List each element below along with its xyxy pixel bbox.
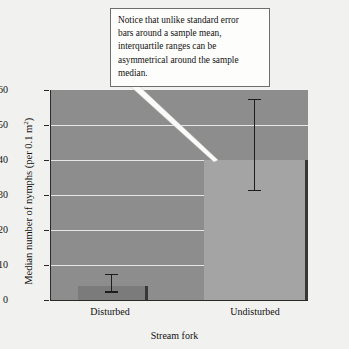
x-tick-label-undisturbed: Undisturbed [200,306,310,317]
gridline-50 [51,125,308,126]
y-tick-label-10: 10 [0,259,8,271]
callout-line-1: Notice that unlike standard error [118,14,262,27]
y-tick-label-60: 60 [0,84,8,96]
errorbar-disturbed-cap-lower [105,291,118,293]
errorbar-undisturbed-cap-upper [248,99,261,101]
errorbar-undisturbed-cap-lower [248,190,261,192]
y-tick-label-20: 20 [0,224,8,236]
y-tick-mark-50 [44,125,49,126]
x-axis-title: Stream fork [0,330,349,341]
y-tick-mark-30 [44,195,49,196]
y-tick-mark-20 [44,230,49,231]
y-axis-title-tail: ) [23,118,34,122]
callout-line-4: asymmetrical around the sample [118,54,262,67]
plot-area [50,90,308,301]
y-axis-title-exponent: 2 [22,121,30,125]
y-tick-mark-60 [44,90,49,91]
y-tick-mark-0 [44,300,49,301]
y-tick-mark-40 [44,160,49,161]
bar-disturbed-shadow [145,286,148,300]
y-tick-label-40: 40 [0,154,8,166]
y-axis-title-main: Median number of nymphs (per 0.1 m [23,125,34,285]
callout-box: Notice that unlike standard error bars a… [110,8,270,87]
errorbar-disturbed-cap-upper [105,274,118,276]
callout-line-2: bars around a sample mean, [118,27,262,40]
y-tick-mark-10 [44,265,49,266]
errorbar-disturbed-stem [111,274,113,292]
x-tick-label-disturbed: Disturbed [60,306,160,317]
bar-undisturbed-shadow [305,160,308,300]
y-tick-label-30: 30 [0,189,8,201]
callout-line-5: median. [118,67,262,80]
errorbar-undisturbed-stem [254,99,256,190]
y-tick-label-50: 50 [0,119,8,131]
figure-bar-chart-nymphs: 60 50 40 30 20 10 0 Median number of nym… [0,0,349,349]
y-tick-label-0: 0 [3,294,8,306]
callout-line-3: interquartile ranges can be [118,40,262,53]
y-axis-title: Median number of nymphs (per 0.1 m2) [22,96,35,306]
